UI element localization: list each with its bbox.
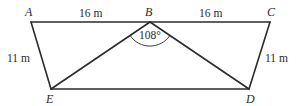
angle-label-b: 108° <box>139 29 161 41</box>
length-label-ae: 11 m <box>7 52 30 64</box>
edge-ea <box>31 22 51 89</box>
vertex-label-e: E <box>45 92 54 106</box>
edge-bd <box>150 22 249 89</box>
length-label-bc: 16 m <box>199 7 222 19</box>
length-label-ab: 16 m <box>79 7 102 19</box>
length-label-cd: 11 m <box>265 52 288 64</box>
vertex-label-a: A <box>24 5 33 19</box>
edge-be <box>51 22 150 89</box>
vertex-label-c: C <box>267 5 276 19</box>
vertex-label-b: B <box>145 5 153 19</box>
vertex-label-d: D <box>245 92 255 106</box>
geometry-diagram: A B C D E 16 m 16 m 11 m 11 m 108° <box>0 0 298 106</box>
